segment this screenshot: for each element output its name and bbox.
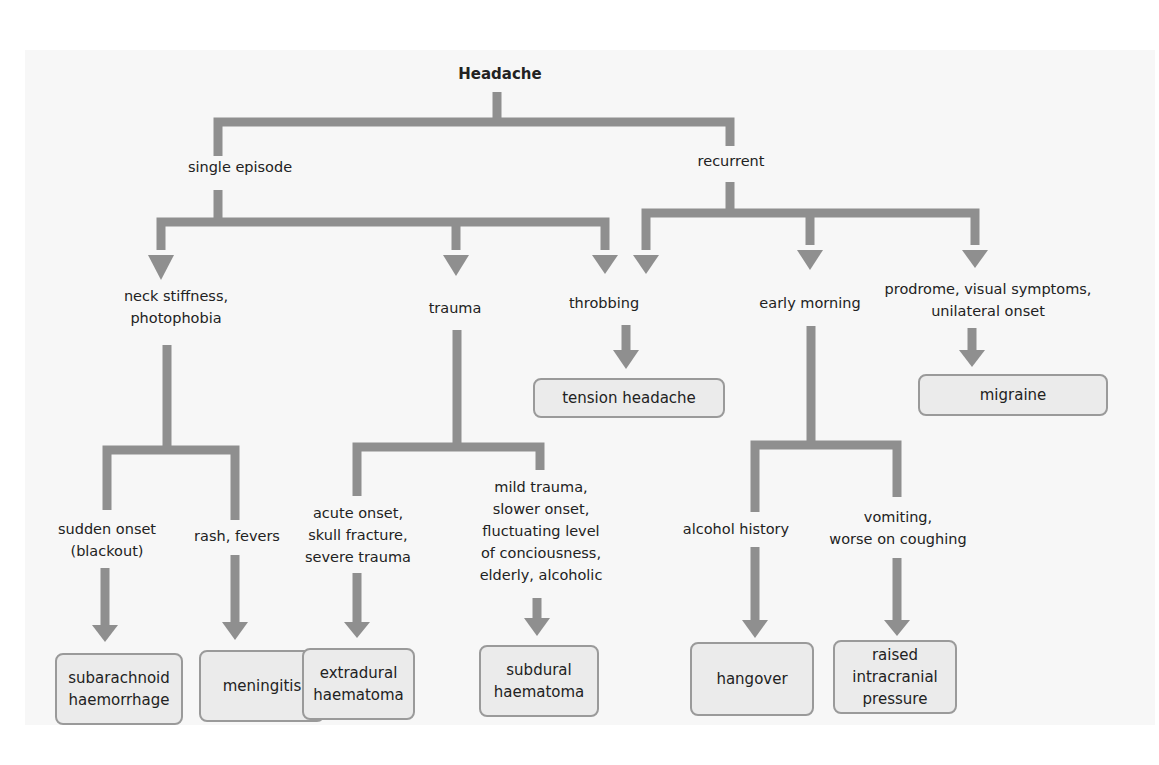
diagnosis-raised-intracranial-pressure: raised intracranial pressure [833, 640, 957, 714]
diagnosis-tension-headache: tension headache [533, 378, 725, 418]
diagnosis-migraine: migraine [918, 374, 1108, 416]
criterion-early-morning: early morning [759, 292, 860, 314]
criterion-sudden-onset: sudden onset (blackout) [58, 518, 156, 562]
criterion-trauma: trauma [429, 297, 482, 319]
root-headache: Headache [458, 63, 541, 85]
diagnosis-subarachnoid-haemorrhage: subarachnoid haemorrhage [55, 653, 183, 725]
criterion-rash-fevers: rash, fevers [194, 525, 280, 547]
criterion-mild-trauma: mild trauma, slower onset, fluctuating l… [480, 476, 603, 586]
branch-single-episode: single episode [188, 156, 292, 178]
branch-recurrent: recurrent [698, 150, 765, 172]
diagnosis-extradural-haematoma: extradural haematoma [302, 648, 415, 720]
criterion-prodrome: prodrome, visual symptoms, unilateral on… [885, 278, 1092, 322]
criterion-neck-stiffness: neck stiffness, photophobia [124, 285, 228, 329]
diagnosis-subdural-haematoma: subdural haematoma [479, 645, 599, 717]
criterion-vomiting: vomiting, worse on coughing [829, 506, 966, 550]
diagnosis-hangover: hangover [690, 642, 814, 716]
criterion-acute-onset: acute onset, skull fracture, severe trau… [305, 502, 411, 568]
criterion-throbbing: throbbing [569, 292, 639, 314]
criterion-alcohol-history: alcohol history [683, 518, 789, 540]
